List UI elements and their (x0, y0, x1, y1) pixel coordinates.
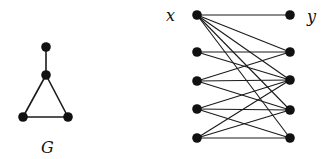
graph-g-vertex (41, 70, 51, 80)
graph-g-edge (23, 75, 46, 117)
graph-g-edge (46, 75, 68, 117)
bipartite-vertex (285, 133, 295, 143)
figure: G x y (0, 0, 327, 159)
bipartite-vertex (285, 10, 295, 20)
bipartite-edge (197, 80, 290, 81)
bipartite-vertex (192, 104, 202, 114)
bipartite-vertex (192, 10, 202, 20)
bipartite-edge (197, 15, 290, 80)
bipartite-vertex (192, 47, 202, 57)
vertex-label-y: y (306, 7, 317, 26)
vertex-label-x: x (166, 6, 175, 25)
bipartite-edge (197, 80, 290, 109)
graph-g-edges (23, 47, 68, 117)
bipartite-edges (197, 15, 290, 138)
graph-g-vertex (63, 112, 73, 122)
graph-g-label: G (41, 138, 54, 157)
bipartite-vertex (285, 47, 295, 57)
bipartite-vertex (285, 105, 295, 115)
bipartite-vertex (192, 133, 202, 143)
graph-g-vertex (41, 42, 51, 52)
graph-g-vertex (18, 112, 28, 122)
bipartite-vertex (192, 76, 202, 86)
bipartite-vertex (285, 75, 295, 85)
